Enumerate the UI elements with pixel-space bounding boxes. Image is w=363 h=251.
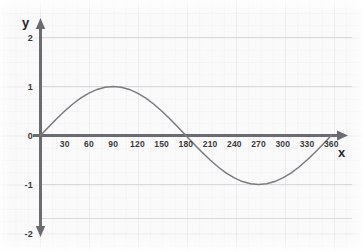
x-tick-label: 180 bbox=[178, 140, 193, 149]
y-axis-arrow-down bbox=[36, 226, 45, 237]
x-tick-label: 360 bbox=[324, 140, 339, 149]
x-tick-label: 60 bbox=[84, 140, 94, 149]
x-tick-label: 30 bbox=[60, 140, 70, 149]
sine-graph-figure: y x 306090120150180210240270300330360 21… bbox=[0, 0, 363, 251]
x-tick-label: 150 bbox=[154, 140, 169, 149]
y-tick-label: 1 bbox=[28, 82, 33, 91]
x-tick-label: 330 bbox=[300, 140, 315, 149]
x-tick-label: 300 bbox=[275, 140, 290, 149]
x-tick-label: 90 bbox=[108, 140, 118, 149]
x-tick-label: 120 bbox=[130, 140, 145, 149]
y-axis-label: y bbox=[22, 16, 29, 29]
y-tick-label: 0 bbox=[28, 131, 33, 140]
y-tick-label: -1 bbox=[25, 180, 33, 189]
x-tick-label: 210 bbox=[203, 140, 218, 149]
y-axis-arrow-up bbox=[36, 18, 45, 29]
plot-area bbox=[0, 0, 363, 251]
y-tick-label: 2 bbox=[28, 33, 33, 42]
y-axis bbox=[36, 18, 45, 237]
y-tick-label: -2 bbox=[25, 229, 33, 238]
x-axis-label: x bbox=[338, 146, 345, 159]
gridlines bbox=[40, 38, 352, 219]
x-tick-label: 240 bbox=[227, 140, 242, 149]
x-tick-label: 270 bbox=[251, 140, 266, 149]
